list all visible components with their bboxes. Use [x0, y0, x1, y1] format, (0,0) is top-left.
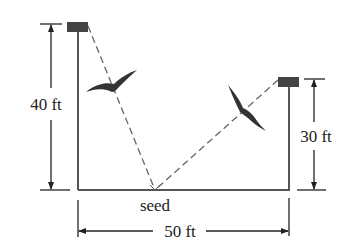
right-height-label: 30 ft: [300, 127, 332, 146]
left-flight-path: [88, 26, 155, 190]
left-pole: [67, 22, 88, 190]
left-height-dimension: 40 ft: [30, 24, 70, 190]
right-pole: [278, 77, 299, 190]
left-pole-cap: [67, 22, 88, 32]
width-label: 50 ft: [164, 222, 196, 241]
right-flight-path: [155, 80, 278, 190]
width-dimension: 50 ft: [78, 198, 289, 241]
left-height-label: 40 ft: [30, 95, 62, 114]
seed-label: seed: [140, 196, 171, 215]
right-height-dimension: 30 ft: [297, 79, 332, 190]
bird-right-icon: [228, 85, 266, 131]
right-pole-cap: [278, 77, 299, 87]
bird-left-icon: [86, 70, 137, 92]
bird-seed-diagram: seed 40 ft 30 ft 50 ft: [0, 0, 356, 249]
